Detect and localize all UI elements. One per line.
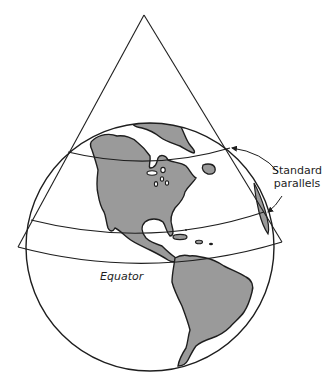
newfoundland [202,164,215,174]
standard-parallels-label-line1: Standard [272,164,322,177]
north-america [91,134,196,261]
leader-arrow-lower [268,196,282,212]
diagram-canvas [0,0,327,389]
conic-projection-diagram: Standard parallels Equator [0,0,327,389]
hispaniola [196,240,203,244]
south-america [172,255,253,366]
puerto-rico [209,243,213,245]
equator-label: Equator [100,270,143,283]
standard-parallels-label: Standard parallels [272,164,322,190]
cuba [173,234,187,239]
standard-parallels-label-line2: parallels [272,177,322,190]
